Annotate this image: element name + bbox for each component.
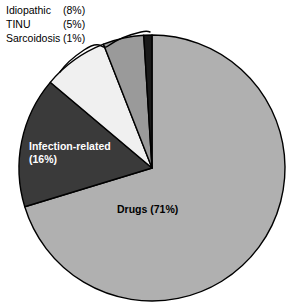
legend-item-sarcoidosis: Sarcoidosis (1%) — [6, 31, 111, 45]
legend-item-value: (5%) — [63, 17, 85, 31]
legend-item-label: Idiopathic — [6, 3, 63, 17]
slice-label-drugs: Drugs (71%) — [117, 203, 178, 216]
pie-slice-group — [19, 35, 285, 301]
pie-chart-figure: Idiopathic (8%) TINU (5%) Sarcoidosis (1… — [0, 0, 299, 307]
legend-item-label: TINU — [6, 17, 63, 31]
legend-item-value: (8%) — [63, 3, 85, 17]
legend-item-label: Sarcoidosis — [6, 31, 63, 45]
legend: Idiopathic (8%) TINU (5%) Sarcoidosis (1… — [6, 3, 111, 45]
slice-label-line-2: (16%) — [29, 153, 111, 166]
slice-label-line-1: Infection-related — [29, 140, 111, 153]
legend-item-idiopathic: Idiopathic (8%) — [6, 3, 111, 17]
legend-item-tinu: TINU (5%) — [6, 17, 111, 31]
legend-item-value: (1%) — [63, 31, 85, 45]
slice-label-infection-related: Infection-related (16%) — [29, 140, 111, 165]
